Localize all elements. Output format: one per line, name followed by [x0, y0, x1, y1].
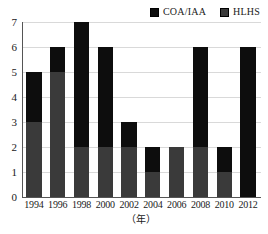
- y-tick-label: 3: [12, 117, 18, 128]
- bar-segment-hlhs[interactable]: [98, 47, 113, 147]
- bar-stack[interactable]: [240, 22, 255, 197]
- bar-segment-coa-iaa[interactable]: [217, 172, 232, 197]
- legend-swatch-coa-iaa: [150, 8, 159, 17]
- bar-segment-hlhs[interactable]: [26, 72, 41, 122]
- stacked-bar-chart: COA/IAA HLHS 76543210 199419961998200020…: [0, 0, 268, 234]
- bar-segment-coa-iaa[interactable]: [50, 72, 65, 197]
- bar-segment-coa-iaa[interactable]: [145, 172, 160, 197]
- bar-segment-coa-iaa[interactable]: [193, 147, 208, 197]
- x-tick-label: 1996: [46, 199, 70, 213]
- x-axis-title: （年）: [22, 214, 260, 226]
- x-tick-label: 2006: [165, 199, 189, 213]
- legend-swatch-hlhs: [220, 8, 229, 17]
- bar-segment-hlhs[interactable]: [121, 122, 136, 147]
- y-axis: 76543210: [0, 22, 20, 197]
- y-tick-label: 5: [12, 67, 18, 78]
- y-tick-label: 6: [12, 42, 18, 53]
- x-tick-label: 2004: [141, 199, 165, 213]
- x-tick-label: 2008: [189, 199, 213, 213]
- bar-segment-hlhs[interactable]: [50, 47, 65, 72]
- bar-segment-hlhs[interactable]: [145, 147, 160, 172]
- bar-segment-coa-iaa[interactable]: [74, 147, 89, 197]
- x-tick-label: 2010: [212, 199, 236, 213]
- bar-segment-hlhs[interactable]: [193, 47, 208, 147]
- y-tick-label: 4: [12, 92, 18, 103]
- y-tick-label: 7: [12, 17, 18, 28]
- bar-slot: [212, 22, 236, 197]
- bar-stack[interactable]: [193, 22, 208, 197]
- y-tick-label: 2: [12, 142, 18, 153]
- bar-segment-hlhs[interactable]: [74, 22, 89, 147]
- x-tick-label: 2012: [236, 199, 260, 213]
- bar-segment-coa-iaa[interactable]: [98, 147, 113, 197]
- x-tick-label: 1998: [70, 199, 94, 213]
- bar-segment-coa-iaa[interactable]: [169, 147, 184, 197]
- y-tick-label: 1: [12, 167, 18, 178]
- bar-stack[interactable]: [50, 22, 65, 197]
- bar-slot: [22, 22, 46, 197]
- bar-segment-coa-iaa[interactable]: [26, 122, 41, 197]
- bar-stack[interactable]: [26, 22, 41, 197]
- x-tick-label: 2002: [117, 199, 141, 213]
- x-tick-label: 2000: [93, 199, 117, 213]
- bar-slot: [189, 22, 213, 197]
- bar-slot: [236, 22, 260, 197]
- bar-slot: [46, 22, 70, 197]
- bar-slot: [141, 22, 165, 197]
- bar-stack[interactable]: [121, 22, 136, 197]
- legend-label-hlhs: HLHS: [233, 7, 260, 17]
- bars-layer: [22, 22, 260, 197]
- bar-segment-hlhs[interactable]: [217, 147, 232, 172]
- bar-segment-coa-iaa[interactable]: [121, 147, 136, 197]
- x-axis: 1994199619982000200220042006200820102012: [22, 199, 260, 213]
- bar-slot: [93, 22, 117, 197]
- chart-legend: COA/IAA HLHS: [0, 4, 268, 20]
- legend-entry-coa-iaa: COA/IAA: [150, 7, 206, 17]
- y-tick-label: 0: [12, 192, 18, 203]
- bar-slot: [117, 22, 141, 197]
- bar-stack[interactable]: [217, 22, 232, 197]
- bar-stack[interactable]: [145, 22, 160, 197]
- bar-stack[interactable]: [169, 22, 184, 197]
- x-tick-label: 1994: [22, 199, 46, 213]
- legend-label-coa-iaa: COA/IAA: [163, 7, 206, 17]
- bar-stack[interactable]: [74, 22, 89, 197]
- bar-segment-hlhs[interactable]: [240, 47, 255, 197]
- bar-slot: [165, 22, 189, 197]
- bar-stack[interactable]: [98, 22, 113, 197]
- legend-entry-hlhs: HLHS: [220, 7, 260, 17]
- bar-slot: [70, 22, 94, 197]
